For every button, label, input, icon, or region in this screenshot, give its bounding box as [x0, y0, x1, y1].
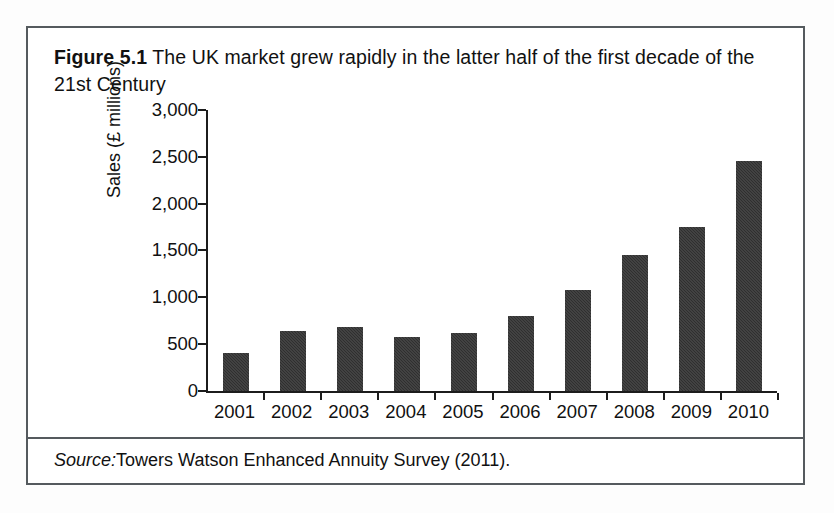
figure-caption-text: The UK market grew rapidly in the latter…: [54, 46, 755, 95]
y-tick-mark: [198, 203, 206, 205]
bar-2005: [451, 333, 477, 391]
bar-2002: [280, 331, 306, 391]
bar-2007: [565, 290, 591, 391]
bar-slot: [436, 110, 493, 391]
x-axis-tick-labels: 2001200220032004200520062007200820092010: [206, 397, 777, 423]
bar-2004: [394, 337, 420, 391]
bar-2010: [736, 161, 762, 391]
bar-slot: [549, 110, 606, 391]
x-tick-label: 2006: [499, 401, 540, 423]
y-tick-mark: [198, 249, 206, 251]
bar-2006: [508, 316, 534, 391]
y-tick-mark: [198, 390, 206, 392]
figure-frame: Figure 5.1 The UK market grew rapidly in…: [26, 26, 805, 485]
source-text: Towers Watson Enhanced Annuity Survey (2…: [116, 450, 510, 470]
x-tick-label: 2001: [214, 401, 255, 423]
plot-area: [206, 110, 777, 393]
bar-2008: [622, 255, 648, 391]
x-tick-label: 2003: [328, 401, 369, 423]
bars-layer: [208, 110, 777, 391]
bar-2009: [679, 227, 705, 391]
chart-region: Sales (£ millions) 05001,0001,5002,0002,…: [48, 98, 783, 437]
bar-slot: [606, 110, 663, 391]
x-tick-mark: [777, 393, 779, 400]
y-axis-tick-labels: 05001,0001,5002,0002,5003,000: [120, 98, 198, 437]
bar-slot: [265, 110, 322, 391]
bar-slot: [379, 110, 436, 391]
y-tick-mark: [198, 156, 206, 158]
y-tick-label: 1,000: [152, 286, 198, 308]
page-background: Figure 5.1 The UK market grew rapidly in…: [0, 0, 834, 513]
y-tick-label: 0: [188, 380, 198, 402]
bar-slot: [493, 110, 550, 391]
source-line: Source:Towers Watson Enhanced Annuity Su…: [28, 439, 803, 483]
figure-caption-label: Figure 5.1: [54, 46, 147, 68]
x-tick-label: 2007: [557, 401, 598, 423]
y-tick-mark: [198, 343, 206, 345]
bar-2001: [223, 353, 249, 391]
y-tick-mark: [198, 296, 206, 298]
y-tick-label: 500: [167, 333, 198, 355]
x-tick-label: 2002: [271, 401, 312, 423]
y-tick-label: 3,000: [152, 99, 198, 121]
figure-caption: Figure 5.1 The UK market grew rapidly in…: [28, 28, 803, 98]
x-tick-label: 2010: [728, 401, 769, 423]
bar-2003: [337, 327, 363, 391]
y-tick-mark: [198, 109, 206, 111]
source-label: Source:: [54, 450, 116, 470]
y-tick-label: 2,500: [152, 146, 198, 168]
y-tick-label: 2,000: [152, 193, 198, 215]
bar-slot: [663, 110, 720, 391]
y-tick-label: 1,500: [152, 239, 198, 261]
x-tick-label: 2008: [614, 401, 655, 423]
x-tick-label: 2004: [385, 401, 426, 423]
x-tick-label: 2005: [442, 401, 483, 423]
bar-slot: [208, 110, 265, 391]
x-tick-label: 2009: [671, 401, 712, 423]
bar-slot: [322, 110, 379, 391]
bar-slot: [720, 110, 777, 391]
